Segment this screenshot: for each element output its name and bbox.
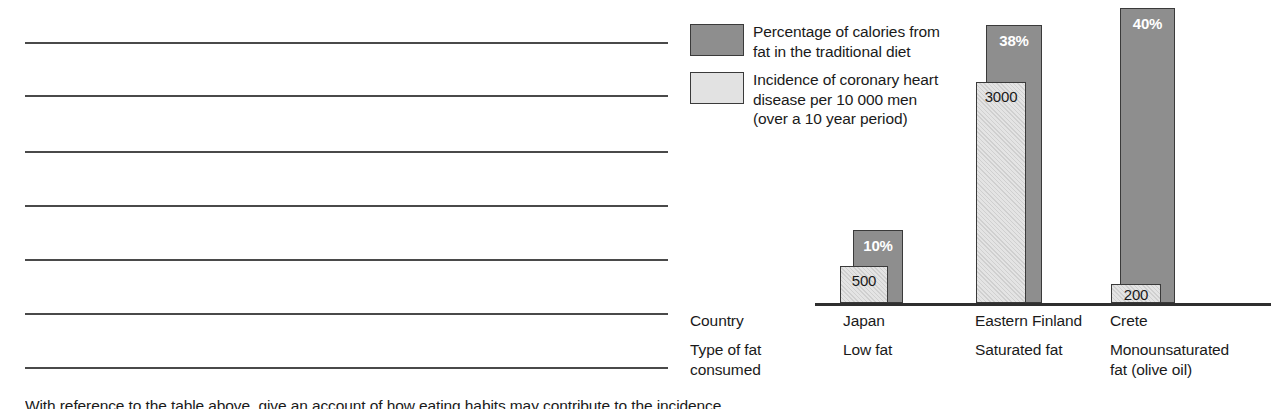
fat-type-value-eastern-finland: Saturated fat	[975, 340, 1062, 360]
bar-crete-chd-incidence: 200	[1111, 284, 1161, 303]
question-footer-text: With reference to the table above, give …	[25, 396, 1265, 409]
answer-line	[25, 42, 668, 44]
bar-value-eastern-finland-chd-incidence: 3000	[977, 88, 1025, 105]
bar-value-eastern-finland-fat-percentage: 38%	[987, 32, 1041, 49]
answer-line	[25, 313, 668, 315]
answer-line	[25, 95, 668, 97]
answer-line	[25, 259, 668, 261]
answer-line	[25, 367, 668, 369]
country-value-eastern-finland: Eastern Finland	[975, 311, 1082, 331]
row-header-fat-type: Type of fat consumed	[690, 340, 761, 379]
answer-line	[25, 205, 668, 207]
row-header-country: Country	[690, 311, 744, 331]
fat-type-value-japan: Low fat	[843, 340, 892, 360]
fat-type-value-crete: Monounsaturated fat (olive oil)	[1110, 340, 1229, 379]
bar-eastern-finland-chd-incidence: 3000	[976, 82, 1026, 303]
bar-value-japan-fat-percentage: 10%	[854, 237, 902, 254]
bar-crete-fat-percentage: 40%	[1120, 8, 1175, 303]
legend-swatch-dark-icon	[690, 24, 744, 56]
country-value-crete: Crete	[1110, 311, 1147, 331]
page-root: Percentage of calories from fat in the t…	[0, 0, 1287, 409]
chart-x-axis	[815, 303, 1271, 306]
bar-value-crete-fat-percentage: 40%	[1121, 15, 1174, 32]
bar-value-japan-chd-incidence: 500	[841, 272, 887, 289]
bar-japan-chd-incidence: 500	[840, 266, 888, 303]
country-value-japan: Japan	[843, 311, 885, 331]
bar-chart: 10% 500 38% 3000 40% 200	[815, 0, 1271, 306]
legend-swatch-light-icon	[690, 72, 744, 104]
answer-line	[25, 151, 668, 153]
bar-value-crete-chd-incidence: 200	[1112, 286, 1160, 303]
